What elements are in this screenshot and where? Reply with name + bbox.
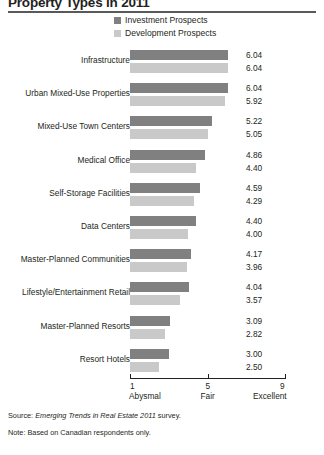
title-divider — [8, 11, 316, 13]
axis-tick — [208, 374, 209, 379]
bar-investment — [130, 349, 169, 359]
bar-value-investment: 6.04 — [246, 50, 262, 60]
category-label: Infrastructure — [81, 55, 130, 65]
category-label: Urban Mixed-Use Properties — [25, 88, 130, 98]
bar-development — [130, 229, 188, 239]
bar-investment — [130, 282, 189, 292]
axis-tick-number: 1 — [130, 381, 135, 391]
axis-tick-number: 9 — [280, 381, 285, 391]
legend-label-development: Development Prospects — [125, 29, 216, 38]
bar-value-development: 3.57 — [246, 295, 262, 305]
bar-investment — [130, 249, 191, 259]
bar-group: Urban Mixed-Use Properties6.045.92 — [0, 79, 324, 112]
source-prefix: Source: — [8, 411, 35, 420]
category-label: Mixed-Use Town Centers — [37, 121, 130, 131]
legend-swatch-investment — [114, 17, 121, 24]
bar-development — [130, 262, 187, 272]
legend-label-investment: Investment Prospects — [125, 16, 208, 25]
bar-value-development: 5.92 — [246, 96, 262, 106]
bar-value-investment: 4.40 — [246, 216, 262, 226]
bar-value-development: 4.40 — [246, 163, 262, 173]
page-title: Property Types in 2011 — [8, 0, 150, 10]
axis-tick — [285, 374, 286, 379]
footnote: Note: Based on Canadian respondents only… — [8, 428, 151, 437]
bar-value-investment: 5.22 — [246, 116, 262, 126]
source-suffix: survey. — [156, 411, 181, 420]
bar-investment — [130, 316, 170, 326]
bar-value-development: 5.05 — [246, 129, 262, 139]
axis-tick-word: Fair — [201, 391, 215, 401]
category-label: Resort Hotels — [80, 354, 130, 364]
category-label: Lifestyle/Entertainment Retail — [22, 287, 130, 297]
bar-value-investment: 4.86 — [246, 150, 262, 160]
axis-tick-word: Excellent — [253, 391, 287, 401]
bar-group: Self-Storage Facilities4.594.29 — [0, 179, 324, 212]
category-label: Medical Office — [78, 155, 130, 165]
bar-development — [130, 329, 165, 339]
bar-value-development: 6.04 — [246, 63, 262, 73]
bar-value-development: 2.50 — [246, 362, 262, 372]
bar-group: Infrastructure6.046.04 — [0, 46, 324, 79]
bar-development — [130, 63, 228, 73]
bar-investment — [130, 216, 196, 226]
bar-investment — [130, 50, 228, 60]
bar-value-investment: 4.17 — [246, 249, 262, 259]
plot-area: Infrastructure6.046.04Urban Mixed-Use Pr… — [0, 46, 324, 378]
legend-item-development: Development Prospects — [114, 28, 216, 39]
chart-legend: Investment Prospects Development Prospec… — [114, 15, 216, 41]
legend-item-investment: Investment Prospects — [114, 15, 216, 26]
bar-investment — [130, 83, 228, 93]
bar-development — [130, 96, 225, 106]
bar-value-investment: 6.04 — [246, 83, 262, 93]
source-title: Emerging Trends in Real Estate 2011 — [35, 411, 156, 420]
source-note: Source: Emerging Trends in Real Estate 2… — [8, 411, 181, 420]
bar-group: Medical Office4.864.40 — [0, 146, 324, 179]
bar-group: Mixed-Use Town Centers5.225.05 — [0, 112, 324, 145]
axis-tick-number: 5 — [206, 381, 211, 391]
bar-group: Master-Planned Resorts3.092.82 — [0, 312, 324, 345]
bar-group: Resort Hotels3.002.50 — [0, 345, 324, 378]
bar-development — [130, 362, 159, 372]
bar-value-development: 4.29 — [246, 196, 262, 206]
bar-group: Lifestyle/Entertainment Retail4.043.57 — [0, 278, 324, 311]
bar-group: Master-Planned Communities4.173.96 — [0, 245, 324, 278]
bar-development — [130, 196, 194, 206]
category-label: Master-Planned Communities — [21, 254, 130, 264]
category-label: Self-Storage Facilities — [49, 188, 130, 198]
chart-figure: Property Types in 2011 Investment Prospe… — [0, 0, 324, 455]
axis-tick — [130, 374, 131, 379]
bar-value-development: 4.00 — [246, 229, 262, 239]
bar-investment — [130, 116, 212, 126]
bar-development — [130, 163, 196, 173]
category-label: Master-Planned Resorts — [41, 321, 130, 331]
bar-value-development: 2.82 — [246, 329, 262, 339]
bar-development — [130, 129, 208, 139]
bar-value-investment: 3.09 — [246, 316, 262, 326]
bar-group: Data Centers4.404.00 — [0, 212, 324, 245]
bar-development — [130, 295, 180, 305]
bar-value-development: 3.96 — [246, 262, 262, 272]
bar-value-investment: 4.04 — [246, 282, 262, 292]
bar-investment — [130, 183, 200, 193]
bar-value-investment: 3.00 — [246, 349, 262, 359]
bar-value-investment: 4.59 — [246, 183, 262, 193]
axis-tick-word: Abysmal — [129, 391, 161, 401]
category-label: Data Centers — [81, 221, 130, 231]
bar-investment — [130, 150, 205, 160]
legend-swatch-development — [114, 30, 121, 37]
